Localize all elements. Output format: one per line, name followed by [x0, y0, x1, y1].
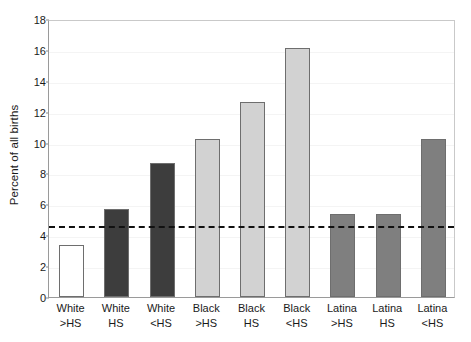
bar [285, 48, 310, 297]
x-axis-tick-label-line1: White [48, 301, 93, 316]
x-axis-tick-label-line1: White [93, 301, 138, 316]
y-axis-tick-label: 14 [34, 76, 46, 88]
x-axis-tick-label: Black<HS [274, 301, 319, 330]
x-axis-tick-label-line2: <HS [138, 316, 183, 331]
bars-layer [49, 21, 454, 297]
x-axis-tick-label: White<HS [138, 301, 183, 330]
y-axis-tick-labels: 024681012141618 [26, 20, 46, 298]
y-axis-tick-label: 12 [34, 107, 46, 119]
x-axis-tick-label: Latina>HS [319, 301, 364, 330]
x-axis-tick-label-line1: White [138, 301, 183, 316]
x-axis-tick-label-line2: >HS [184, 316, 229, 331]
bar [104, 209, 129, 297]
x-axis-tick-label-line1: Latina [365, 301, 410, 316]
y-axis-tick-label: 10 [34, 138, 46, 150]
x-axis-tick-label-line1: Latina [319, 301, 364, 316]
x-axis-tick-label-line1: Black [274, 301, 319, 316]
y-axis-title-label: Percent of all births [8, 105, 20, 206]
y-axis-tick-label: 16 [34, 45, 46, 57]
bar-chart: Percent of all births 024681012141618 Wh… [0, 0, 471, 342]
x-axis-tick-label-line1: Black [184, 301, 229, 316]
bar [421, 139, 446, 297]
x-axis-tick-label-line2: HS [229, 316, 274, 331]
x-axis-tick-label-line2: HS [365, 316, 410, 331]
x-axis-tick-label: Latina<HS [410, 301, 455, 330]
bar [59, 245, 84, 298]
x-axis-tick-label: Black>HS [184, 301, 229, 330]
bar [240, 102, 265, 297]
x-axis-tick-label: LatinaHS [365, 301, 410, 330]
bar [195, 139, 220, 297]
plot-area [48, 20, 455, 298]
x-axis-tick-label: BlackHS [229, 301, 274, 330]
x-axis-tick-label-line2: <HS [274, 316, 319, 331]
x-axis-tick-label-line1: Latina [410, 301, 455, 316]
x-axis-tick-label-line2: >HS [319, 316, 364, 331]
x-axis-tick-label-line2: >HS [48, 316, 93, 331]
x-axis-tick-label-line1: Black [229, 301, 274, 316]
x-axis-tick-label: WhiteHS [93, 301, 138, 330]
y-axis-title: Percent of all births [0, 0, 28, 310]
bar [150, 163, 175, 297]
x-axis-tick-labels: White>HSWhiteHSWhite<HSBlack>HSBlackHSBl… [48, 301, 455, 342]
y-axis-tick-label: 18 [34, 14, 46, 26]
x-axis-tick-label: White>HS [48, 301, 93, 330]
x-axis-tick-label-line2: <HS [410, 316, 455, 331]
x-axis-tick-label-line2: HS [93, 316, 138, 331]
reference-line [49, 226, 454, 228]
